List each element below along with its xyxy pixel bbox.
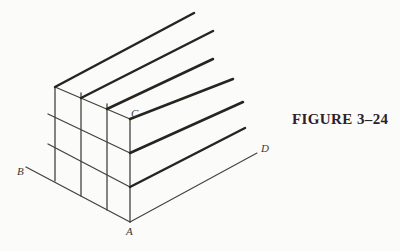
parallel-ray bbox=[81, 31, 213, 98]
parallel-ray bbox=[130, 128, 245, 187]
point-label-c: C bbox=[131, 107, 139, 119]
grid-ab-line bbox=[48, 144, 130, 187]
point-label-b: B bbox=[17, 165, 24, 177]
line-ad bbox=[130, 153, 257, 222]
parallel-ray bbox=[130, 102, 243, 153]
grid-ab-line bbox=[26, 167, 130, 222]
grid-ab-line bbox=[48, 114, 130, 153]
figure-caption: FIGURE 3–24 bbox=[292, 111, 389, 128]
parallel-ray bbox=[107, 59, 213, 109]
textbook-figure-page: BACD FIGURE 3–24 bbox=[0, 0, 400, 251]
point-label-a: A bbox=[125, 225, 133, 237]
point-label-d: D bbox=[260, 142, 269, 154]
